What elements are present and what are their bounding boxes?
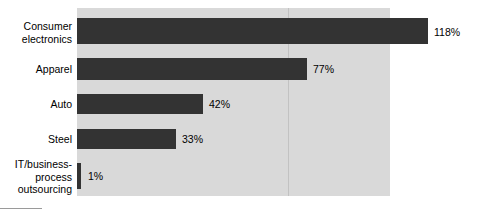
value-label-consumer-electronics: 118% [434, 26, 460, 38]
category-label-it-business-process-outsourcing: IT/business- process outsourcing [0, 158, 72, 196]
bar-auto [77, 94, 203, 114]
category-label-steel: Steel [0, 133, 72, 146]
bar-it-business-process-outsourcing [77, 163, 81, 189]
bar-apparel [77, 58, 307, 80]
category-label-auto: Auto [0, 98, 72, 111]
value-label-apparel: 77% [313, 63, 334, 75]
value-label-auto: 42% [209, 98, 230, 110]
value-label-steel: 33% [182, 133, 203, 145]
bar-steel [77, 129, 176, 149]
category-label-apparel: Apparel [0, 63, 72, 76]
value-label-it-business-process-outsourcing: 1% [88, 170, 103, 182]
bar-consumer-electronics [77, 18, 428, 44]
footer-divider-rule [0, 208, 42, 209]
category-label-consumer-electronics: Consumer electronics [0, 20, 72, 45]
bar-chart-figure: Consumer electronics 118% Apparel 77% Au… [0, 0, 479, 216]
